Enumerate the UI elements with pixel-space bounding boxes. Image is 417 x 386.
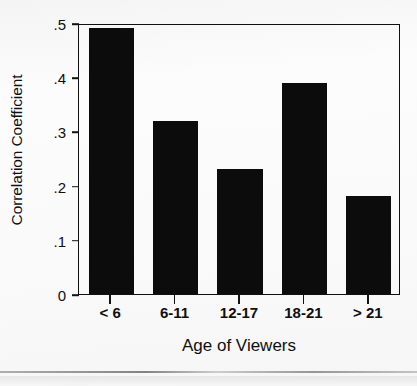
y-axis-tick-label: .3: [53, 125, 66, 140]
y-axis-tick-label: 0: [58, 288, 66, 303]
x-axis-tick-label: 6-11: [160, 304, 189, 322]
y-axis-tick-label: .5: [53, 17, 66, 32]
x-axis-tick-label: 12-17: [220, 304, 258, 322]
bar: [217, 169, 262, 294]
x-axis-tick-label: 18-21: [284, 304, 322, 322]
x-axis-tick-mark: [303, 295, 305, 304]
x-axis-tick-mark: [174, 295, 176, 304]
x-axis-tick-label: < 6: [100, 304, 121, 322]
x-axis-title-text: Age of Viewers: [182, 336, 296, 355]
bar: [89, 28, 134, 294]
y-axis-title: Correlation Coefficient: [0, 0, 34, 300]
scan-artifact-rule: [0, 371, 417, 373]
bar: [346, 196, 391, 294]
x-axis-tick-labels: < 66-1112-1718-21> 21: [78, 304, 400, 328]
x-axis-tick-marks: [78, 295, 400, 304]
scan-artifact-smudge: [0, 376, 417, 386]
x-axis-tick-mark: [367, 295, 369, 304]
y-axis-tick-label: .2: [53, 179, 66, 194]
x-axis-tick-label: > 21: [353, 304, 383, 322]
bar-chart-figure: Correlation Coefficient .5.4.3.2.10 < 66…: [0, 0, 417, 386]
x-axis-tick-mark: [238, 295, 240, 304]
bar: [153, 121, 198, 294]
y-axis-tick-label: .4: [53, 71, 66, 86]
y-axis-tick-labels: .5.4.3.2.10: [36, 24, 70, 295]
y-axis-title-text: Correlation Coefficient: [8, 75, 26, 226]
bar-series: [79, 25, 399, 294]
x-axis-tick-mark: [109, 295, 111, 304]
plot-area: [78, 24, 400, 295]
y-axis-tick-label: .1: [53, 233, 66, 248]
bar: [282, 83, 327, 294]
x-axis-title: Age of Viewers: [78, 336, 400, 356]
